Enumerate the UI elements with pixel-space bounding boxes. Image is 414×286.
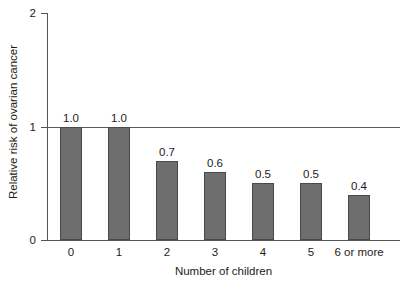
bar-chart: Relative risk of ovarian cancer 2 1 0 1.… [0, 0, 414, 286]
bar-value-label: 0.4 [335, 180, 383, 192]
y-tick-label-1: 1 [10, 121, 36, 133]
bar-group: 0.4 [335, 13, 383, 240]
bar [156, 161, 178, 240]
bar [300, 183, 322, 240]
y-tick-mark-0 [41, 240, 47, 241]
x-axis-title: Number of children [47, 264, 400, 278]
bar [348, 195, 370, 240]
plot-area: 1.0 1.0 0.7 0.6 0.5 0.5 0.4 [47, 13, 400, 240]
bar [252, 183, 274, 240]
y-tick-label-0: 0 [10, 234, 36, 246]
y-tick-label-2: 2 [10, 7, 36, 19]
bar-value-label: 1.0 [47, 112, 95, 124]
x-axis-line [47, 240, 400, 241]
bar-value-label: 0.5 [239, 168, 287, 180]
bar-value-label: 1.0 [95, 112, 143, 124]
bar-value-label: 0.7 [143, 146, 191, 158]
bar-group: 1.0 [95, 13, 143, 240]
x-tick-label-6: 6 or more [324, 245, 394, 259]
bar [108, 127, 130, 241]
bar-value-label: 0.6 [191, 157, 239, 169]
bar-group: 1.0 [47, 13, 95, 240]
bar [204, 172, 226, 240]
bar-group: 0.5 [287, 13, 335, 240]
bar-value-label: 0.5 [287, 168, 335, 180]
bar [60, 127, 82, 241]
bar-group: 0.6 [191, 13, 239, 240]
bar-group: 0.7 [143, 13, 191, 240]
bar-group: 0.5 [239, 13, 287, 240]
